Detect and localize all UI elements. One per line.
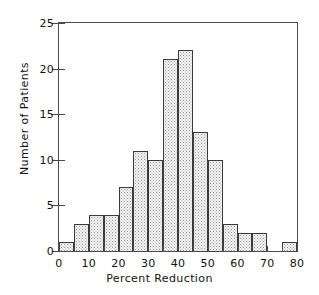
histogram-figure: Number of Patients 0510152025 0102030405… — [0, 0, 319, 295]
x-tick-label: 0 — [55, 257, 62, 270]
y-tick-label: 10 — [39, 153, 54, 166]
histogram-bar — [252, 233, 267, 251]
y-axis-title: Number of Patients — [18, 29, 31, 209]
x-tick-mark — [163, 246, 164, 252]
y-tick-label: 15 — [39, 108, 54, 121]
histogram-bar — [282, 242, 297, 251]
x-tick-label: 70 — [260, 257, 275, 270]
x-tick-label: 50 — [200, 257, 215, 270]
x-tick-mark — [148, 246, 149, 252]
plot-area: 0510152025 01020304050607080 — [58, 22, 298, 252]
y-tick-mark-inner — [59, 205, 65, 206]
histogram-bar — [223, 224, 238, 251]
x-tick-mark — [282, 246, 283, 252]
histogram-bar — [193, 132, 208, 251]
histogram-bar — [133, 151, 148, 251]
x-tick-mark — [193, 246, 194, 252]
x-tick-label: 60 — [230, 257, 245, 270]
x-tick-mark — [104, 246, 105, 252]
x-tick-mark — [178, 246, 179, 252]
histogram-bar — [59, 242, 74, 251]
x-tick-mark — [119, 246, 120, 252]
y-tick-label: 5 — [47, 199, 54, 212]
x-tick-mark — [89, 246, 90, 252]
x-tick-label: 40 — [171, 257, 186, 270]
y-tick-mark-inner — [59, 114, 65, 115]
x-tick-mark — [223, 246, 224, 252]
y-tick-label: 0 — [47, 245, 54, 258]
y-tick-mark-inner — [59, 160, 65, 161]
histogram-bar — [119, 187, 134, 251]
histogram-bar — [148, 160, 163, 251]
histogram-bar — [178, 50, 193, 251]
histogram-bar — [74, 224, 89, 251]
x-tick-mark — [133, 246, 134, 252]
histogram-bar — [163, 59, 178, 251]
x-tick-mark — [208, 246, 209, 252]
x-tick-mark — [74, 246, 75, 252]
x-tick-label: 20 — [111, 257, 126, 270]
x-tick-mark — [267, 246, 268, 252]
y-tick-mark-inner — [59, 23, 65, 24]
y-tick-label: 20 — [39, 62, 54, 75]
y-tick-mark-inner — [59, 69, 65, 70]
x-tick-label: 30 — [141, 257, 156, 270]
histogram-bar — [238, 233, 253, 251]
histogram-bar — [208, 160, 223, 251]
x-tick-mark — [297, 246, 298, 252]
x-tick-mark — [252, 246, 253, 252]
y-tick-label: 25 — [39, 17, 54, 30]
x-tick-mark — [238, 246, 239, 252]
x-tick-label: 80 — [290, 257, 305, 270]
histogram-bar — [104, 215, 119, 251]
x-axis-title: Percent Reduction — [0, 272, 319, 285]
histogram-bar — [89, 215, 104, 251]
x-tick-mark — [59, 246, 60, 252]
x-tick-label: 10 — [81, 257, 96, 270]
